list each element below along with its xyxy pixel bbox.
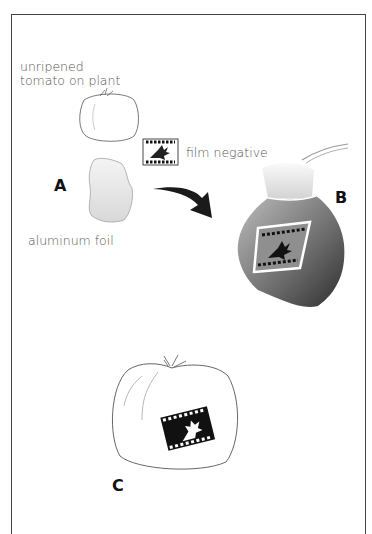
unripened-tomato-icon [80, 88, 139, 141]
film-label: film negative [186, 146, 268, 160]
developed-tomato-icon [112, 355, 237, 469]
tomato-label-line2: tomato on plant [20, 74, 120, 88]
foil-label: aluminum foil [28, 234, 114, 248]
wrapped-tomato-bag-icon [238, 144, 348, 307]
film-negative-icon [143, 139, 178, 165]
step-a-label: A [54, 176, 66, 195]
process-arrow-icon [153, 187, 212, 218]
aluminum-foil-shape [89, 158, 132, 222]
step-b-label: B [335, 188, 347, 207]
step-c-label: C [112, 476, 124, 495]
tomato-label-line1: unripened [20, 60, 84, 74]
